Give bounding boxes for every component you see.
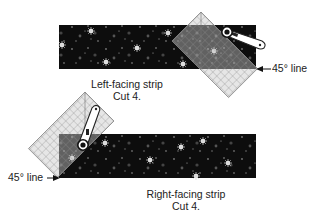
45-degree-line-label: 45° line [8,172,43,183]
caption-title: Left-facing strip [87,79,167,91]
caption-instruction: Cut 4. [143,201,229,213]
caption-instruction: Cut 4. [87,91,167,103]
caption-title: Right-facing strip [143,189,229,201]
right-facing-strip-caption: Right-facing strip Cut 4. [143,189,229,212]
45-degree-line-label: 45° line [272,63,307,74]
45-degree-line-arrow [256,66,271,72]
right-facing-strip-panel [28,92,256,181]
left-facing-strip-caption: Left-facing strip Cut 4. [87,79,167,102]
